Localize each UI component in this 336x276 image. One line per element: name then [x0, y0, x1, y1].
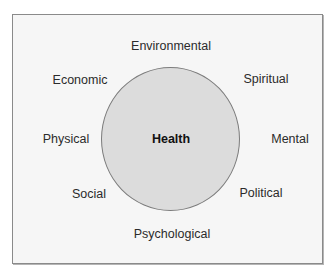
factor-spiritual: Spiritual — [243, 72, 288, 86]
factor-economic: Economic — [53, 73, 108, 87]
factor-social: Social — [72, 187, 106, 201]
factor-environmental: Environmental — [131, 39, 211, 53]
factor-mental: Mental — [271, 132, 309, 146]
center-label: Health — [152, 132, 190, 146]
factor-psychological: Psychological — [134, 227, 210, 241]
factor-political: Political — [239, 186, 282, 200]
factor-physical: Physical — [43, 132, 90, 146]
